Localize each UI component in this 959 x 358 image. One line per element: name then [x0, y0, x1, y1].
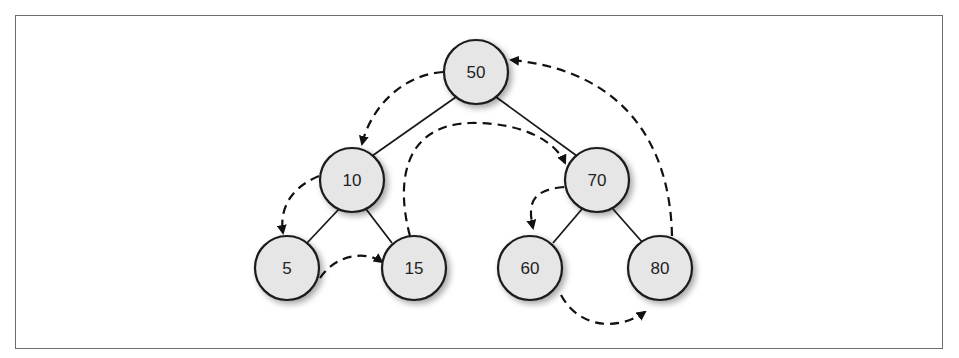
edge-50-70	[496, 97, 577, 156]
edge-70-60	[553, 209, 582, 243]
edge-10-15	[366, 209, 392, 243]
node-label: 60	[521, 259, 540, 278]
tree-node-10: 10	[320, 148, 384, 212]
arrow-10-to-5	[282, 176, 319, 233]
edge-10-5	[307, 209, 339, 243]
tree-node-70: 70	[565, 148, 629, 212]
node-label: 15	[405, 259, 424, 278]
arrow-5-to-15	[320, 256, 382, 278]
node-label: 5	[282, 259, 291, 278]
arrow-15-to-70	[404, 123, 565, 236]
edge-70-80	[613, 209, 643, 243]
tree-nodes: 5010705156080	[255, 40, 692, 300]
node-label: 10	[343, 171, 362, 190]
tree-node-60: 60	[498, 236, 562, 300]
tree-diagram: 5010705156080	[0, 0, 959, 358]
arrow-60-to-80	[561, 295, 645, 324]
tree-node-80: 80	[628, 236, 692, 300]
tree-node-50: 50	[444, 40, 508, 104]
tree-node-5: 5	[255, 236, 319, 300]
node-label: 70	[588, 171, 607, 190]
node-label: 80	[651, 259, 670, 278]
arrow-70-to-60	[531, 187, 564, 228]
tree-node-15: 15	[382, 236, 446, 300]
node-label: 50	[467, 63, 486, 82]
